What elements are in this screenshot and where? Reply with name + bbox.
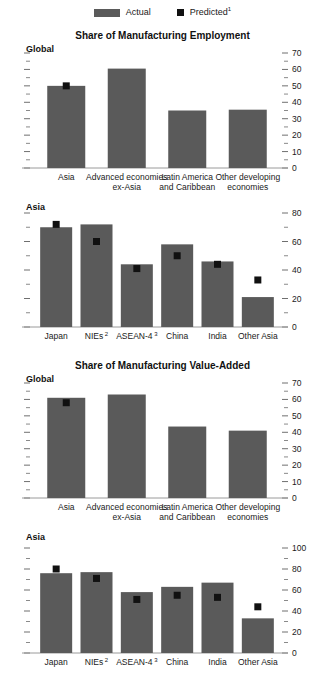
y-tick-label: 80 [292,208,302,218]
category-label: and Caribbean [159,512,215,522]
panel-label-global-employment: Global [26,44,54,54]
panel-label-asia-value-added: Asia [26,532,45,542]
category-footnote-marker: 3 [153,331,159,337]
panel-label-global-value-added: Global [26,374,54,384]
bar [47,398,85,498]
bar [202,583,234,653]
predicted-marker [133,596,140,603]
category-label: Other Asia [238,657,278,667]
bar [229,110,267,168]
category-label: China [166,657,188,667]
category-label: and Caribbean [159,182,215,192]
panel-global-value-added: Global010203040506070AsiaAdvanced econom… [0,374,325,526]
category-label: economies [227,512,268,522]
bar [121,264,153,327]
legend-label-predicted: Predicted1 [190,8,231,17]
category-label: Other Asia [238,331,278,341]
chart-asia-employment: 020406080JapanNIEs 2ASEAN-4 3ChinaIndiaO… [0,202,325,352]
y-tick-label: 40 [292,265,302,275]
y-tick-label: 0 [292,648,297,658]
predicted-marker [93,575,100,582]
category-label: ex-Asia [113,512,142,522]
panel-asia-value-added: Asia020406080100JapanNIEs 2ASEAN-4 3Chin… [0,532,325,677]
y-tick-label: 80 [292,564,302,574]
category-label: Japan [45,657,68,667]
y-tick-label: 10 [292,147,302,157]
y-tick-label: 100 [292,543,306,553]
y-tick-label: 70 [292,378,302,388]
category-label: NIEs 2 [85,331,109,341]
y-tick-label: 60 [292,394,302,404]
predicted-marker [93,238,100,245]
bar [202,261,234,327]
category-label: China [166,331,188,341]
predicted-marker [63,82,70,89]
panel-label-asia-employment: Asia [26,202,45,212]
y-tick-label: 40 [292,97,302,107]
chart-global-employment: 010203040506070AsiaAdvanced economiesex-… [0,44,325,196]
bar [168,427,206,498]
bar [108,69,146,168]
bar [40,227,72,327]
category-label: Other developing [215,502,280,512]
panel-global-employment: Global010203040506070AsiaAdvanced econom… [0,44,325,196]
category-label: India [208,657,227,667]
predicted-marker [254,603,261,610]
chart-legend: Actual Predicted1 [0,8,325,17]
bar [108,395,146,499]
predicted-marker [53,566,60,573]
chart-title-employment: Share of Manufacturing Employment [0,30,325,41]
bar [40,573,72,653]
category-label: ASEAN-4 3 [116,657,158,667]
category-label: ex-Asia [113,182,142,192]
category-label: Latin America [162,502,214,512]
y-tick-label: 50 [292,81,302,91]
y-tick-label: 10 [292,477,302,487]
y-tick-label: 0 [292,163,297,173]
category-label: Asia [58,172,75,182]
bar [242,618,274,653]
y-tick-label: 0 [292,322,297,332]
y-tick-label: 70 [292,48,302,58]
predicted-marker [53,221,60,228]
legend-item-predicted: Predicted1 [177,8,231,17]
legend-item-actual: Actual [94,8,151,17]
y-tick-label: 20 [292,294,302,304]
category-label: India [208,331,227,341]
bar [242,297,274,327]
category-label: Other developing [215,172,280,182]
chart-asia-value-added: 020406080100JapanNIEs 2ASEAN-4 3ChinaInd… [0,532,325,677]
category-footnote-marker: 3 [153,657,159,663]
predicted-marker [214,261,221,268]
y-tick-label: 30 [292,444,302,454]
category-label: Asia [58,502,75,512]
bar [81,572,113,653]
y-tick-label: 40 [292,606,302,616]
category-label: NIEs 2 [85,657,109,667]
category-label: economies [227,182,268,192]
predicted-marker [133,265,140,272]
y-tick-label: 20 [292,130,302,140]
y-tick-label: 60 [292,237,302,247]
y-tick-label: 60 [292,585,302,595]
chart-global-value-added: 010203040506070AsiaAdvanced economiesex-… [0,374,325,526]
y-tick-label: 0 [292,493,297,503]
predicted-marker [214,594,221,601]
y-tick-label: 20 [292,460,302,470]
chart-title-value-added: Share of Manufacturing Value-Added [0,360,325,371]
bar [168,111,206,169]
category-label: Advanced economies [86,172,167,182]
predicted-marker [63,399,70,406]
bar [229,431,267,498]
y-tick-label: 20 [292,627,302,637]
y-tick-label: 30 [292,114,302,124]
y-tick-label: 60 [292,64,302,74]
bar [47,86,85,168]
figure-sheet: Actual Predicted1 Share of Manufacturing… [0,0,325,677]
category-label: Latin America [162,172,214,182]
category-footnote-marker: 2 [103,331,109,337]
legend-bar-swatch-icon [94,9,120,17]
predicted-marker [174,252,181,259]
y-tick-label: 40 [292,427,302,437]
legend-footnote-marker: 1 [228,6,231,12]
